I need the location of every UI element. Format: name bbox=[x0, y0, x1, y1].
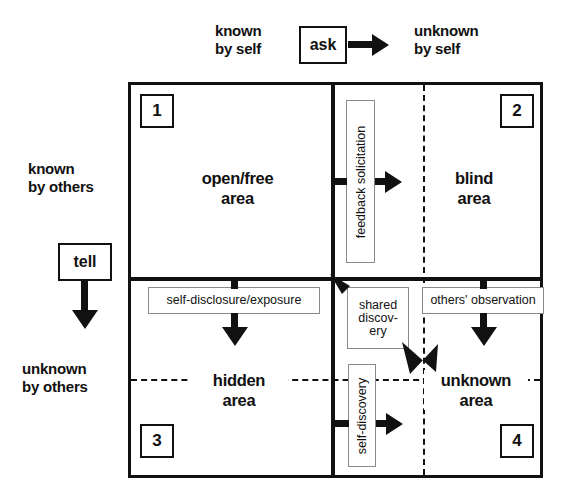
quadrant-number-1: 1 bbox=[140, 94, 174, 128]
feedback-arrow-head-icon bbox=[385, 171, 402, 193]
tell-box: tell bbox=[58, 243, 112, 281]
ask-arrow-head-icon bbox=[372, 34, 389, 56]
shared-discovery-label-line2: discov- bbox=[358, 312, 398, 325]
quadrant-3-name-line2: area bbox=[190, 390, 288, 410]
quadrant-number-2-label: 2 bbox=[512, 101, 521, 121]
others-observation-arrow-head-icon bbox=[471, 327, 497, 346]
johari-window-diagram: known by self unknown by self ask known … bbox=[0, 0, 572, 503]
shared-discovery-arrow-down-right-icon bbox=[402, 338, 446, 382]
self-discovery-label: self-discovery bbox=[355, 377, 369, 453]
others-observation-arrow-stub bbox=[480, 279, 487, 289]
quadrant-4-name-line2: area bbox=[424, 390, 528, 410]
tell-arrow-shaft bbox=[81, 281, 88, 313]
self-discovery-arrow-head-icon bbox=[386, 413, 403, 435]
ask-box-label: ask bbox=[310, 36, 337, 54]
ask-arrow-shaft bbox=[348, 41, 374, 48]
axis-label-known-by-others-line1: known bbox=[28, 160, 94, 178]
self-discovery-arrow-stub bbox=[333, 420, 349, 427]
axis-label-unknown-by-self-line1: unknown bbox=[414, 22, 478, 40]
shared-discovery-arrow-up-left-icon bbox=[328, 272, 354, 298]
feedback-solicitation-label: feedback solicitation bbox=[354, 125, 368, 238]
quadrant-1-name-line2: area bbox=[175, 188, 300, 208]
quadrant-2-name-line1: blind bbox=[420, 168, 528, 188]
quadrant-number-3-label: 3 bbox=[152, 431, 161, 451]
quadrant-number-2: 2 bbox=[500, 94, 534, 128]
tell-box-label: tell bbox=[73, 253, 96, 271]
quadrant-number-3: 3 bbox=[140, 424, 174, 458]
quadrant-number-1-label: 1 bbox=[152, 101, 161, 121]
others-observation-box: others' observation bbox=[422, 287, 544, 314]
axis-label-known-by-self-line1: known bbox=[215, 22, 262, 40]
shared-discovery-label-line3: ery bbox=[369, 325, 386, 338]
quadrant-1-name: open/free area bbox=[175, 168, 300, 208]
axis-label-unknown-by-self: unknown by self bbox=[414, 22, 478, 58]
quadrant-3-name: hidden area bbox=[190, 370, 288, 410]
self-discovery-box: self-discovery bbox=[348, 364, 376, 467]
shared-discovery-box: shared discov- ery bbox=[347, 287, 409, 349]
axis-label-known-by-self-line2: by self bbox=[215, 40, 262, 58]
ask-box: ask bbox=[299, 26, 347, 64]
axis-label-unknown-by-others-line1: unknown bbox=[22, 360, 88, 378]
quadrant-2-name: blind area bbox=[420, 168, 528, 208]
axis-label-known-by-others: known by others bbox=[28, 160, 94, 196]
self-disclosure-box: self-disclosure/exposure bbox=[148, 287, 320, 314]
axis-label-unknown-by-others: unknown by others bbox=[22, 360, 88, 396]
self-disclosure-label: self-disclosure/exposure bbox=[167, 294, 302, 307]
feedback-solicitation-box: feedback solicitation bbox=[346, 100, 375, 263]
quadrant-number-4: 4 bbox=[500, 424, 534, 458]
axis-label-unknown-by-others-line2: by others bbox=[22, 378, 88, 396]
others-observation-label: others' observation bbox=[430, 294, 535, 307]
axis-label-known-by-others-line2: by others bbox=[28, 178, 94, 196]
axis-label-unknown-by-self-line2: by self bbox=[414, 40, 478, 58]
feedback-arrow-stub bbox=[333, 178, 347, 185]
self-disclosure-arrow-stub bbox=[231, 279, 238, 289]
shared-discovery-label-line1: shared bbox=[359, 299, 397, 312]
quadrant-1-name-line1: open/free bbox=[175, 168, 300, 188]
self-disclosure-arrow-head-icon bbox=[222, 327, 248, 346]
quadrant-3-name-line1: hidden bbox=[190, 370, 288, 390]
quadrant-2-name-line2: area bbox=[420, 188, 528, 208]
tell-arrow-head-icon bbox=[72, 310, 98, 329]
axis-label-known-by-self: known by self bbox=[215, 22, 262, 58]
quadrant-number-4-label: 4 bbox=[512, 431, 521, 451]
